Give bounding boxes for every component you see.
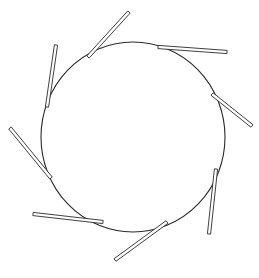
blade-5 [114, 221, 168, 262]
blade-3 [211, 93, 253, 128]
pinwheel-diagram [0, 0, 259, 278]
blade-2 [158, 45, 227, 53]
blade-group [9, 11, 253, 261]
blade-1 [87, 11, 130, 58]
blade-8 [45, 45, 57, 107]
blade-6 [33, 212, 103, 223]
blade-7 [9, 127, 52, 179]
blade-4 [207, 169, 217, 234]
hub-circle [41, 42, 225, 232]
